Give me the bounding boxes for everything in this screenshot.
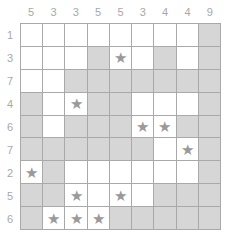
empty-cell[interactable]	[154, 161, 175, 183]
shaded-cell[interactable]	[154, 184, 175, 206]
shaded-cell[interactable]	[199, 161, 220, 183]
empty-cell[interactable]	[132, 161, 153, 183]
shaded-cell[interactable]	[132, 70, 153, 92]
star-cell[interactable]: ★	[43, 207, 64, 229]
row-clue: 6	[0, 207, 20, 230]
shaded-cell[interactable]	[43, 161, 64, 183]
empty-cell[interactable]	[43, 93, 64, 115]
empty-cell[interactable]	[43, 116, 64, 138]
empty-cell[interactable]	[177, 93, 198, 115]
shaded-cell[interactable]	[177, 70, 198, 92]
shaded-cell[interactable]	[88, 47, 109, 69]
column-clue: 3	[132, 4, 154, 20]
shaded-cell[interactable]	[88, 116, 109, 138]
empty-cell[interactable]	[43, 70, 64, 92]
column-clue: 5	[87, 4, 109, 20]
empty-cell[interactable]	[154, 93, 175, 115]
star-cell[interactable]: ★	[65, 93, 86, 115]
star-icon: ★	[181, 142, 194, 157]
column-clues: 533553449	[20, 4, 221, 20]
row-clue: 1	[0, 23, 20, 46]
empty-cell[interactable]	[65, 161, 86, 183]
star-cell[interactable]: ★	[177, 138, 198, 160]
shaded-cell[interactable]	[177, 184, 198, 206]
shaded-cell[interactable]	[110, 116, 131, 138]
star-cell[interactable]: ★	[132, 116, 153, 138]
shaded-cell[interactable]	[132, 207, 153, 229]
shaded-cell[interactable]	[21, 138, 42, 160]
star-cell[interactable]: ★	[154, 116, 175, 138]
shaded-cell[interactable]	[43, 184, 64, 206]
empty-cell[interactable]	[88, 184, 109, 206]
star-cell[interactable]: ★	[110, 47, 131, 69]
shaded-cell[interactable]	[43, 138, 64, 160]
empty-cell[interactable]	[132, 93, 153, 115]
shaded-cell[interactable]	[199, 116, 220, 138]
shaded-cell[interactable]	[110, 93, 131, 115]
row-clue: 3	[0, 46, 20, 69]
shaded-cell[interactable]	[199, 70, 220, 92]
star-cell[interactable]: ★	[88, 207, 109, 229]
shaded-cell[interactable]	[21, 116, 42, 138]
empty-cell[interactable]	[88, 24, 109, 46]
shaded-cell[interactable]	[199, 138, 220, 160]
star-cell[interactable]: ★	[65, 207, 86, 229]
column-clue: 4	[176, 4, 198, 20]
empty-cell[interactable]	[177, 24, 198, 46]
row-clue: 6	[0, 115, 20, 138]
empty-cell[interactable]	[132, 24, 153, 46]
shaded-cell[interactable]	[154, 207, 175, 229]
star-cell[interactable]: ★	[21, 161, 42, 183]
shaded-cell[interactable]	[177, 207, 198, 229]
empty-cell[interactable]	[65, 24, 86, 46]
shaded-cell[interactable]	[88, 138, 109, 160]
star-cell[interactable]: ★	[110, 184, 131, 206]
star-icon: ★	[92, 211, 105, 226]
shaded-cell[interactable]	[88, 93, 109, 115]
shaded-cell[interactable]	[88, 70, 109, 92]
empty-cell[interactable]	[21, 70, 42, 92]
shaded-cell[interactable]	[110, 138, 131, 160]
column-clue: 3	[42, 4, 64, 20]
shaded-cell[interactable]	[21, 93, 42, 115]
shaded-cell[interactable]	[110, 70, 131, 92]
empty-cell[interactable]	[132, 184, 153, 206]
shaded-cell[interactable]	[21, 207, 42, 229]
column-clue: 4	[154, 4, 176, 20]
empty-cell[interactable]	[43, 24, 64, 46]
row-clue: 4	[0, 92, 20, 115]
shaded-cell[interactable]	[199, 24, 220, 46]
empty-cell[interactable]	[177, 161, 198, 183]
shaded-cell[interactable]	[154, 47, 175, 69]
shaded-cell[interactable]	[132, 138, 153, 160]
shaded-cell[interactable]	[199, 47, 220, 69]
empty-cell[interactable]	[21, 47, 42, 69]
shaded-cell[interactable]	[65, 70, 86, 92]
empty-cell[interactable]	[177, 47, 198, 69]
empty-cell[interactable]	[110, 24, 131, 46]
shaded-cell[interactable]	[199, 93, 220, 115]
shaded-cell[interactable]	[199, 184, 220, 206]
empty-cell[interactable]	[65, 47, 86, 69]
shaded-cell[interactable]	[65, 138, 86, 160]
empty-cell[interactable]	[154, 24, 175, 46]
star-icon: ★	[70, 96, 83, 111]
shaded-cell[interactable]	[21, 184, 42, 206]
empty-cell[interactable]	[21, 24, 42, 46]
shaded-cell[interactable]	[154, 70, 175, 92]
empty-cell[interactable]	[132, 47, 153, 69]
shaded-cell[interactable]	[65, 116, 86, 138]
puzzle-grid: ★★★★★★★★★★★	[20, 23, 221, 230]
shaded-cell[interactable]	[177, 116, 198, 138]
empty-cell[interactable]	[110, 161, 131, 183]
star-icon: ★	[158, 119, 171, 134]
shaded-cell[interactable]	[110, 207, 131, 229]
shaded-cell[interactable]	[199, 207, 220, 229]
empty-cell[interactable]	[88, 161, 109, 183]
column-clue: 5	[20, 4, 42, 20]
row-clue: 7	[0, 69, 20, 92]
empty-cell[interactable]	[154, 138, 175, 160]
star-cell[interactable]: ★	[65, 184, 86, 206]
empty-cell[interactable]	[43, 47, 64, 69]
star-icon: ★	[114, 188, 127, 203]
